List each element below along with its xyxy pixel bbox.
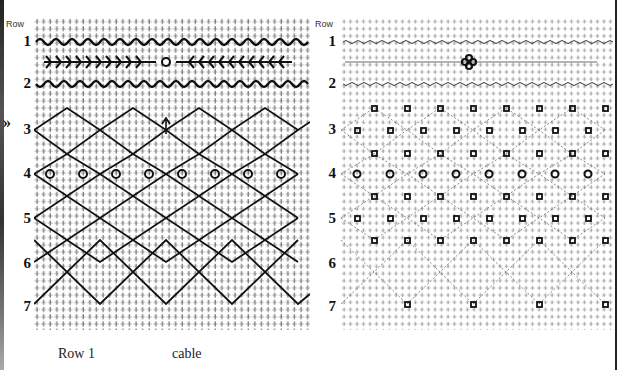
caption-type-label: cable — [172, 346, 202, 362]
left-row-6: 6 — [17, 255, 31, 272]
page-edge-shadow — [0, 0, 4, 370]
right-row-5: 5 — [322, 210, 336, 227]
right-row-6: 6 — [322, 255, 336, 272]
right-row-header: Row — [315, 19, 333, 29]
left-row-header: Row — [6, 19, 24, 29]
caption-row-label: Row 1 — [58, 346, 95, 362]
left-row-7: 7 — [17, 298, 31, 315]
left-row-2: 2 — [17, 75, 31, 92]
right-stitch-chart — [341, 18, 613, 330]
right-row-1: 1 — [322, 33, 336, 50]
left-row-3: 3 — [17, 121, 31, 138]
page-border-line — [615, 0, 617, 370]
left-stitch-chart — [34, 18, 310, 330]
right-row-7: 7 — [322, 298, 336, 315]
left-row-4: 4 — [17, 165, 31, 182]
right-row-3: 3 — [322, 121, 336, 138]
double-chevron-icon: » — [3, 114, 11, 132]
right-row-2: 2 — [322, 75, 336, 92]
right-row-4: 4 — [322, 165, 336, 182]
left-row-1: 1 — [17, 33, 31, 50]
left-row-5: 5 — [17, 210, 31, 227]
